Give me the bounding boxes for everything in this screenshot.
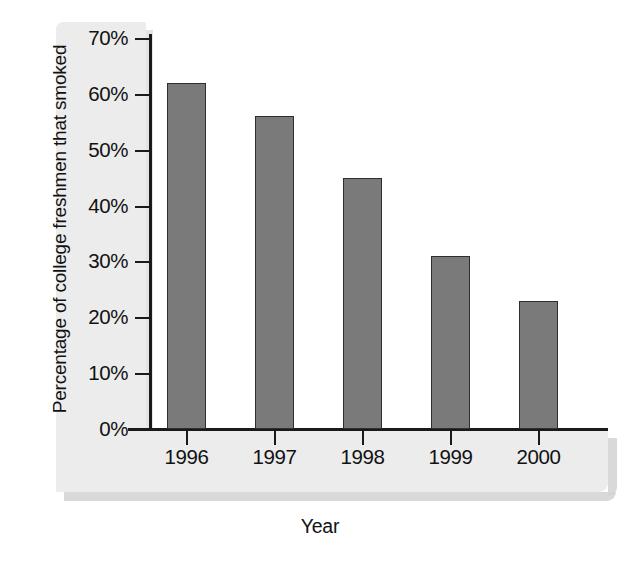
y-tick-mark bbox=[135, 150, 150, 152]
y-axis-title: Percentage of college freshmen that smok… bbox=[49, 19, 71, 439]
x-tick-mark-1999 bbox=[450, 431, 452, 445]
x-tick-label-1999: 1999 bbox=[406, 447, 496, 468]
x-tick-label-1998: 1998 bbox=[318, 447, 408, 468]
bar-2000 bbox=[519, 301, 558, 429]
x-tick-mark-1998 bbox=[362, 431, 364, 445]
y-tick-mark bbox=[135, 206, 150, 208]
bar-1999 bbox=[431, 256, 470, 429]
y-tick-mark bbox=[135, 261, 150, 263]
x-tick-mark-1997 bbox=[274, 431, 276, 445]
bar-1996 bbox=[167, 83, 206, 429]
x-tick-mark-1996 bbox=[186, 431, 188, 445]
bar-1998 bbox=[343, 178, 382, 429]
bar-1997 bbox=[255, 116, 294, 429]
base-plate-drop-shadow bbox=[64, 492, 616, 501]
y-tick-mark bbox=[135, 94, 150, 96]
x-tick-label-1996: 1996 bbox=[142, 447, 232, 468]
y-tick-mark bbox=[135, 373, 150, 375]
x-tick-label-1997: 1997 bbox=[230, 447, 320, 468]
bar-chart-figure: 0%10%20%30%40%50%60%70% 1996199719981999… bbox=[0, 0, 640, 563]
x-tick-label-2000: 2000 bbox=[494, 447, 584, 468]
y-axis-line bbox=[149, 34, 152, 430]
y-tick-mark bbox=[135, 38, 150, 40]
y-tick-mark bbox=[135, 317, 150, 319]
x-tick-mark-2000 bbox=[538, 431, 540, 445]
x-axis-title: Year bbox=[170, 515, 470, 538]
base-plate-right-shadow bbox=[608, 438, 617, 496]
